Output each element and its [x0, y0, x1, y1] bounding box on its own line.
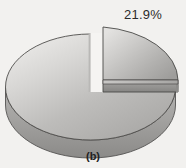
- pie-chart-figure: 21.9% (b): [0, 0, 186, 168]
- pie-slice-exploded: [103, 27, 179, 92]
- pie-chart-graphic: [0, 0, 186, 168]
- slice-percentage-label: 21.9%: [112, 7, 174, 22]
- figure-caption: (b): [0, 150, 186, 162]
